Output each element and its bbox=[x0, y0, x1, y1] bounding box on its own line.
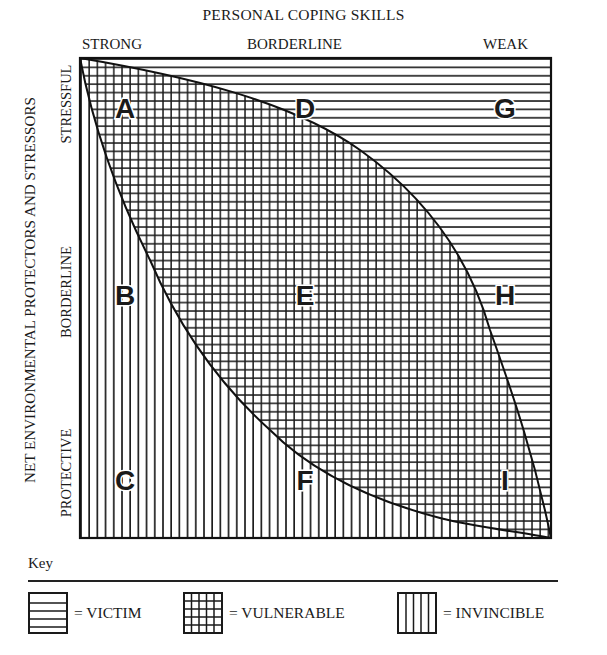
cell-label-i: I bbox=[501, 465, 509, 496]
key-label-victim: = VICTIM bbox=[74, 604, 141, 622]
key-item-victim: = VICTIM bbox=[28, 592, 141, 634]
key-divider bbox=[28, 580, 558, 582]
vulnerable-swatch-icon bbox=[183, 592, 223, 634]
key-title: Key bbox=[28, 555, 53, 572]
cell-label-c: C bbox=[115, 465, 135, 496]
cell-label-h: H bbox=[495, 280, 515, 311]
cell-label-e: E bbox=[296, 280, 315, 311]
key-item-vulnerable: = VULNERABLE bbox=[183, 592, 345, 634]
key-item-invincible: = INVINCIBLE bbox=[397, 592, 544, 634]
key-label-invincible: = INVINCIBLE bbox=[443, 604, 544, 622]
cell-label-g: G bbox=[494, 93, 516, 124]
cell-label-a: A bbox=[115, 93, 135, 124]
diagram-plot: A D G B E H C F I bbox=[0, 0, 607, 655]
cell-label-b: B bbox=[115, 280, 135, 311]
invincible-swatch-icon bbox=[397, 592, 437, 634]
cell-label-d: D bbox=[295, 93, 315, 124]
key-label-vulnerable: = VULNERABLE bbox=[229, 604, 345, 622]
victim-swatch-icon bbox=[28, 592, 68, 634]
cell-label-f: F bbox=[296, 465, 313, 496]
